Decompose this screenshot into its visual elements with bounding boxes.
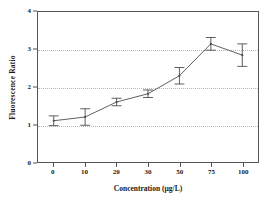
series-line bbox=[54, 44, 243, 121]
x-tick-label-75: 75 bbox=[208, 168, 215, 176]
data-point-0 bbox=[53, 120, 55, 122]
y-tick-label-2: 2 bbox=[28, 84, 32, 91]
x-tick-label-10: 10 bbox=[81, 168, 88, 176]
x-tick-label-20: 20 bbox=[113, 168, 120, 176]
x-tick-label-30: 30 bbox=[145, 168, 152, 176]
x-tick-label-50: 50 bbox=[176, 168, 183, 176]
x-tick-mark-50 bbox=[180, 163, 181, 167]
x-tick-mark-75 bbox=[211, 163, 212, 167]
y-tick-label-1: 1 bbox=[28, 122, 32, 129]
y-tick-label-0: 0 bbox=[28, 160, 32, 167]
x-tick-mark-100 bbox=[243, 163, 244, 167]
x-tick-label-0: 0 bbox=[51, 168, 55, 176]
data-point-75 bbox=[210, 43, 212, 45]
x-tick-label-100: 100 bbox=[238, 168, 249, 176]
data-point-100 bbox=[241, 54, 243, 56]
y-tick-label-3: 3 bbox=[28, 46, 32, 53]
x-tick-mark-10 bbox=[85, 163, 86, 167]
data-point-50 bbox=[178, 75, 180, 77]
x-tick-mark-0 bbox=[53, 163, 54, 167]
data-point-30 bbox=[147, 93, 149, 95]
data-point-20 bbox=[115, 101, 117, 103]
x-tick-mark-20 bbox=[116, 163, 117, 167]
x-axis-title: Concentration (µg/L) bbox=[37, 184, 259, 193]
y-axis: 01234 bbox=[0, 11, 37, 163]
y-tick-label-4: 4 bbox=[28, 8, 32, 15]
chart-figure: Fluorescence Ratio 01234 01020305075100 … bbox=[0, 0, 272, 204]
plot-area bbox=[37, 11, 259, 163]
series-layer bbox=[38, 12, 258, 162]
x-axis: 01020305075100 bbox=[37, 163, 259, 177]
data-point-10 bbox=[84, 116, 86, 118]
line-series bbox=[38, 12, 258, 162]
x-tick-mark-30 bbox=[148, 163, 149, 167]
